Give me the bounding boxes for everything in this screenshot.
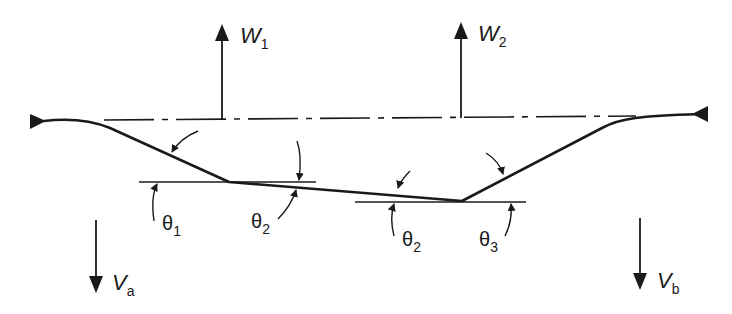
pointer-arrow-icon (398, 171, 410, 188)
pointer-arrow-icon (297, 141, 300, 180)
theta2-right-label: θ2 (402, 228, 421, 255)
svg-text:Va: Va (112, 270, 135, 299)
load-w1: W1 (215, 23, 269, 120)
arrow-up-icon (215, 24, 229, 41)
svg-text:Vb: Vb (657, 268, 680, 297)
theta3-label: θ3 (479, 228, 498, 255)
reaction-vb: Vb (633, 218, 680, 297)
svg-text:W2: W2 (478, 21, 507, 50)
pointer-arrow-icon (486, 153, 503, 174)
pointer-arrow-icon (153, 184, 157, 221)
svg-text:W1: W1 (240, 23, 269, 52)
pointer-arrow-icon (505, 204, 511, 236)
theta2-left-label: θ2 (251, 210, 270, 237)
pointer-arrow-icon (392, 204, 394, 236)
arrow-up-icon (454, 22, 468, 39)
right-support-icon (692, 106, 708, 122)
pointer-arrow-icon (172, 131, 198, 152)
reaction-va: Va (89, 220, 135, 299)
theta1-label: θ1 (162, 212, 181, 239)
arrow-down-icon (633, 273, 647, 290)
arrow-down-icon (89, 276, 103, 293)
reference-chord-line (104, 116, 636, 120)
load-w2: W2 (454, 21, 507, 118)
left-support-icon (30, 114, 46, 129)
pointer-arrow-icon (278, 190, 296, 219)
cable (44, 114, 700, 201)
cable-diagram: W1 W2 θ1 θ2 θ2 θ3 Va Vb (0, 0, 732, 314)
